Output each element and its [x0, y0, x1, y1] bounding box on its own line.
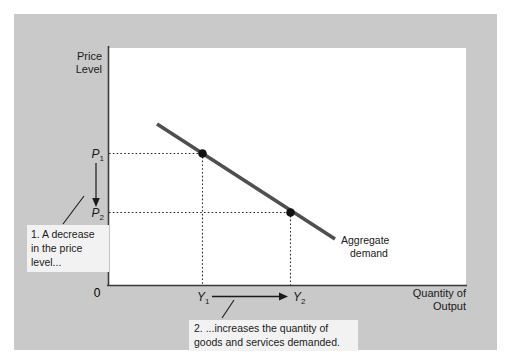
tick-label-y2-subscript: 2: [301, 297, 306, 306]
curve-label-line1: Aggregate: [341, 234, 390, 246]
callout-quantity-increase-line-1: 2. ...increases the quantity of: [194, 322, 328, 334]
callout-price-decrease-line-1: 1. A decrease: [31, 228, 95, 240]
plot-area: [108, 48, 466, 285]
tick-label-p1-symbol: P: [92, 147, 100, 161]
data-point-1: [198, 149, 207, 158]
aggregate-demand-chart: Price Level Quantity of Output 0 P1 P2 Y…: [0, 0, 510, 363]
tick-label-p1-subscript: 1: [100, 154, 105, 163]
tick-label-p2-subscript: 2: [100, 213, 105, 222]
origin-label: 0: [94, 286, 101, 300]
data-point-2: [286, 208, 295, 217]
figure-container: Price Level Quantity of Output 0 P1 P2 Y…: [0, 0, 510, 363]
tick-label-p2-symbol: P: [92, 206, 100, 220]
tick-label-y1-subscript: 1: [205, 297, 210, 306]
callout-quantity-increase-line-2: goods and services demanded.: [194, 336, 340, 348]
x-axis-label-line2: Output: [433, 300, 466, 312]
curve-label-line2: demand: [350, 247, 388, 259]
y-axis-label-line1: Price: [77, 50, 102, 62]
callout-price-decrease-line-3: level...: [31, 256, 61, 268]
callout-price-decrease-line-2: in the price: [31, 242, 83, 254]
x-axis-label-line1: Quantity of: [413, 287, 467, 299]
y-axis-label-line2: Level: [76, 63, 102, 75]
